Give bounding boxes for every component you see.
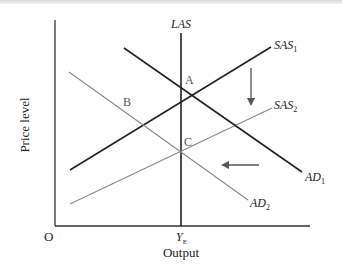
point-c-label: C [184,135,192,149]
sas2-curve [70,108,272,204]
y-axis-label: Price level [17,97,32,153]
sas1-curve [70,47,271,170]
ad1-label: AD1 [304,170,325,186]
point-a-label: A [185,73,194,87]
ad2-curve [69,72,248,200]
ad2-label: AD2 [249,196,270,212]
sas1-label: SAS1 [274,38,297,54]
las-label: LAS [170,17,191,31]
ye-tick-label: YE [176,230,187,246]
point-b-label: B [123,95,131,109]
x-axis-label: Output [163,245,200,260]
sas2-label: SAS2 [274,98,297,114]
ad-as-diagram: LAS SAS1 SAS2 AD1 AD2 A B C O YE Output … [0,0,342,273]
origin-label: O [44,229,53,244]
